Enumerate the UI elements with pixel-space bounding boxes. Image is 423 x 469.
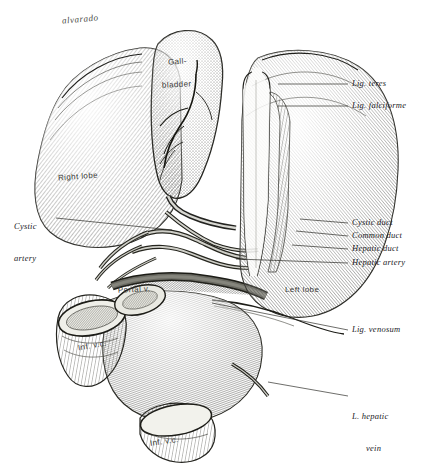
label-lig-teres: Lig. teres bbox=[352, 78, 386, 89]
label-hepatic-duct: Hepatic duct bbox=[352, 243, 399, 254]
label-gall-bladder-line1: Gall- bbox=[168, 56, 188, 68]
label-hepatic-artery: Hepatic artery bbox=[352, 257, 405, 268]
label-cystic-duct: Cystic duct bbox=[352, 217, 393, 228]
label-common-duct: Common duct bbox=[352, 230, 402, 241]
label-l-hepatic-vein: L. hepatic vein bbox=[352, 390, 389, 464]
label-gall-bladder-line2: bladder bbox=[162, 79, 192, 91]
label-cystic-artery: Cystic artery bbox=[14, 200, 37, 274]
label-l-hepatic-vein-line2: vein bbox=[352, 443, 389, 454]
label-left-lobe: Left lobe bbox=[285, 285, 319, 296]
label-lig-falciforme: Lig. falciforme bbox=[352, 100, 406, 111]
label-portal-v: Portal v. bbox=[118, 284, 151, 296]
label-l-hepatic-vein-line1: L. hepatic bbox=[352, 411, 389, 422]
label-cystic-artery-line2: artery bbox=[14, 253, 37, 264]
label-cystic-artery-line1: Cystic bbox=[14, 221, 37, 232]
label-lig-venosum: Lig. venosum bbox=[352, 324, 400, 335]
